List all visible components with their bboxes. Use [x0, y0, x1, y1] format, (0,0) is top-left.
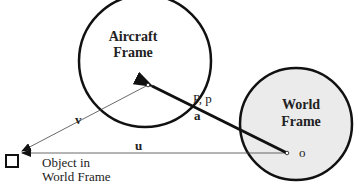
aircraft-frame-circle: [79, 0, 211, 127]
vector-v-label: v: [75, 112, 82, 127]
frames-diagram: Aircraft Frame o World Frame o u v P, p …: [0, 0, 359, 196]
object-icon: [6, 155, 18, 167]
world-frame-title-1: World: [282, 97, 320, 112]
object-label-1: Object in: [42, 155, 91, 170]
aircraft-frame-title-2: Frame: [113, 45, 153, 60]
world-origin-point: [285, 151, 289, 155]
vector-a-label: a: [194, 108, 201, 123]
aircraft-frame-title-1: Aircraft: [109, 29, 158, 44]
object-label-2: World Frame: [42, 169, 111, 184]
aircraft-origin-label: o: [137, 71, 144, 86]
vector-u-label: u: [135, 138, 142, 153]
position-label: P, p: [193, 91, 212, 106]
world-frame-title-2: Frame: [281, 114, 321, 129]
world-origin-label: o: [299, 145, 306, 160]
aircraft-origin-point: [146, 83, 150, 87]
